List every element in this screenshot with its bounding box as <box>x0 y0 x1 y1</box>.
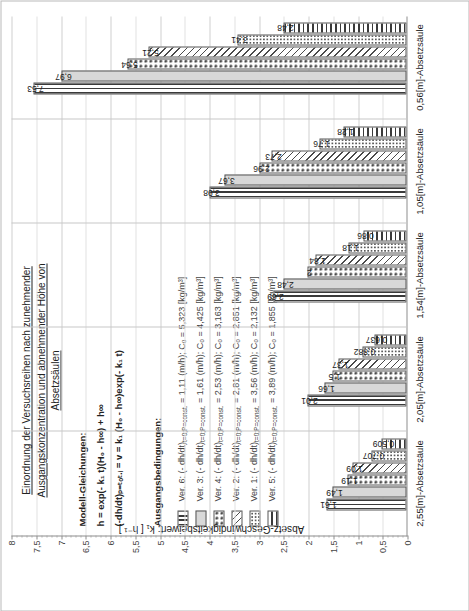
y-tick-label: 1,5 <box>328 540 338 553</box>
y-tick-label: 1 <box>353 540 363 545</box>
category-label-1: 2,55[m]-Absetzsäule <box>413 440 424 527</box>
bar-value-label: 1,61 <box>320 499 337 509</box>
y-tick-mark <box>61 535 62 539</box>
bar-value-label: 1,18 <box>341 242 358 252</box>
y-tick-label: 2,5 <box>278 540 288 553</box>
bar-group-3: 2,692,4821,841,180,861,54[m]-Absetzsäule <box>11 223 406 327</box>
y-tick-mark <box>259 535 260 539</box>
bar-ver-4-1: 1,19 <box>347 474 406 486</box>
bar-ver-4-2: 1,5 <box>332 370 406 382</box>
chart-screenshot: Einordnung der Versuchsreihen nach zuneh… <box>0 0 469 611</box>
bar-value-label: 2,69 <box>267 291 284 301</box>
bar-value-label: 1,5 <box>328 371 340 381</box>
y-tick-mark <box>110 535 111 539</box>
bar-value-label: 7,53 <box>27 83 44 93</box>
category-label-3: 1,54[m]-Absetzsäule <box>413 232 424 319</box>
bar-ver-4-3: 2 <box>307 266 406 278</box>
bar-value-label: 3,41 <box>231 34 248 44</box>
bar-value-label: 0,509 <box>372 438 393 448</box>
y-tick-mark <box>36 535 37 539</box>
bar-group-1: 1,611,491,191,090,7070,5092,55[m]-Absetz… <box>11 431 406 535</box>
bar-value-label: 1,66 <box>318 383 335 393</box>
bar-ver-2-3: 1,84 <box>315 254 406 266</box>
bar-value-label: 2,01 <box>300 395 317 405</box>
y-tick-mark <box>234 535 235 539</box>
y-tick-label: 0,5 <box>377 540 387 553</box>
bar-ver-2-1: 1,09 <box>352 462 406 474</box>
bar-ver-1-5: 3,41 <box>237 34 406 46</box>
bar-value-label: 1,76 <box>313 138 330 148</box>
bar-group-2: 2,011,661,51,370,8820,6372,05[m]-Absetzs… <box>11 327 406 431</box>
y-tick-label: 3,5 <box>229 540 239 553</box>
category-label-5: 0,56[m]-Absetzsäule <box>413 24 424 111</box>
y-tick-label: 4,5 <box>179 540 189 553</box>
bar-ver-3-4: 3,67 <box>224 174 406 186</box>
bar-ver-5-3: 0,86 <box>363 230 406 242</box>
y-tick-label: 5 <box>155 540 165 545</box>
bar-ver-1-2: 0,882 <box>362 346 406 358</box>
y-tick-mark <box>11 535 12 539</box>
y-tick-label: 6,5 <box>80 540 90 553</box>
y-tick-label: 6 <box>105 540 115 545</box>
bar-ver-6-2: 2,01 <box>307 394 406 406</box>
y-tick-mark <box>308 535 309 539</box>
bar-value-label: 0,882 <box>354 346 375 356</box>
y-tick-label: 5,5 <box>130 540 140 553</box>
y-tick-mark <box>358 535 359 539</box>
bar-ver-5-2: 0,637 <box>374 334 406 346</box>
bar-value-label: 1,19 <box>341 475 358 485</box>
bar-value-label: 0,707 <box>362 450 383 460</box>
bar-ver-2-4: 2,73 <box>271 150 406 162</box>
bar-ver-1-1: 0,707 <box>371 450 406 462</box>
y-tick-label: 8 <box>6 540 16 545</box>
bar-ver-3-1: 1,49 <box>332 486 406 498</box>
bar-value-label: 0,86 <box>357 230 374 240</box>
y-tick-label: 0 <box>402 540 412 545</box>
y-tick-mark <box>283 535 284 539</box>
bar-value-label: 0,637 <box>366 334 387 344</box>
y-tick-label: 7 <box>56 540 66 545</box>
figure-canvas: Einordnung der Versuchsreihen nach zuneh… <box>0 0 469 611</box>
bar-value-label: 2,48 <box>277 22 294 32</box>
category-label-4: 1,05[m]-Absetzsäule <box>413 128 424 215</box>
y-tick-mark <box>382 535 383 539</box>
bar-ver-3-5: 6,97 <box>61 70 406 82</box>
bar-value-label: 3,98 <box>203 187 220 197</box>
bar-ver-4-4: 2,96 <box>259 162 406 174</box>
bar-ver-4-5: 5,64 <box>127 58 406 70</box>
bar-group-5: 7,536,975,645,213,412,480,56[m]-Absetzsä… <box>11 15 406 119</box>
bar-value-label: 5,64 <box>121 59 138 69</box>
bar-ver-6-1: 1,61 <box>326 498 406 510</box>
bar-ver-1-3: 1,18 <box>348 242 406 254</box>
bar-ver-3-3: 2,48 <box>283 278 406 290</box>
bar-value-label: 2,96 <box>253 163 270 173</box>
bar-ver-1-4: 1,76 <box>319 138 406 150</box>
bar-value-label: 6,97 <box>55 71 72 81</box>
bar-ver-5-1: 0,509 <box>381 438 406 450</box>
bar-value-label: 3,67 <box>218 175 235 185</box>
bar-value-label: 1,49 <box>326 487 343 497</box>
y-tick-mark <box>407 535 408 539</box>
bar-value-label: 2,48 <box>277 279 294 289</box>
bar-value-label: 1,28 <box>336 126 353 136</box>
bar-value-label: 1,84 <box>309 255 326 265</box>
y-tick-mark <box>209 535 210 539</box>
bar-ver-5-5: 2,48 <box>283 22 406 34</box>
bar-ver-3-2: 1,66 <box>324 382 406 394</box>
bar-ver-6-3: 2,69 <box>273 290 406 302</box>
y-tick-label: 2 <box>303 540 313 545</box>
y-tick-label: 4 <box>204 540 214 545</box>
bar-group-4: 3,983,672,962,731,761,281,05[m]-Absetzsä… <box>11 119 406 223</box>
plot-area: Absetz-Geschwindigkeitsbeiwert: k₁ [ h⁻¹… <box>11 16 407 536</box>
y-tick-mark <box>85 535 86 539</box>
y-tick-mark <box>333 535 334 539</box>
bar-value-label: 5,21 <box>142 47 159 57</box>
y-tick-mark <box>184 535 185 539</box>
bar-value-label: 2 <box>307 267 312 277</box>
category-label-2: 2,05[m]-Absetzsäule <box>413 336 424 423</box>
bar-value-label: 2,73 <box>265 151 282 161</box>
bar-value-label: 1,37 <box>332 359 349 369</box>
y-tick-label: 3 <box>254 540 264 545</box>
y-tick-mark <box>160 535 161 539</box>
bar-ver-2-2: 1,37 <box>338 358 406 370</box>
